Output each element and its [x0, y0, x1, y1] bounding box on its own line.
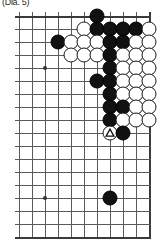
go-diagram: (Dia. 5) — [0, 0, 164, 247]
board-gridline-horizontal — [15, 224, 151, 225]
board-gridline-horizontal — [15, 146, 151, 147]
board-gridline-horizontal — [15, 159, 151, 160]
board-gridline-vertical — [19, 12, 20, 238]
board-gridline-horizontal — [15, 237, 151, 239]
black-stone[interactable] — [103, 191, 118, 206]
board-gridline-horizontal — [15, 16, 151, 18]
diagram-caption: (Dia. 5) — [2, 0, 29, 7]
go-board[interactable] — [15, 12, 151, 238]
white-stone[interactable] — [142, 113, 157, 128]
board-gridline-horizontal — [15, 172, 151, 173]
star-point — [43, 196, 47, 200]
board-gridline-horizontal — [15, 133, 151, 134]
board-gridline-vertical — [45, 12, 46, 238]
board-gridline-vertical — [32, 12, 33, 238]
board-gridline-horizontal — [15, 185, 151, 186]
board-gridline-horizontal — [15, 211, 151, 212]
star-point — [43, 66, 47, 70]
black-stone[interactable] — [116, 126, 131, 141]
board-gridline-horizontal — [15, 198, 151, 199]
